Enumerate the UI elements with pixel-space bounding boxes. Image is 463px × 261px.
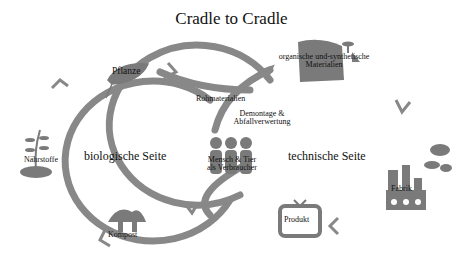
- compost-mushroom-icon: [108, 210, 146, 232]
- factory-icon: [386, 144, 452, 210]
- node-materials: organische und-synthetische Materialien: [268, 53, 380, 70]
- materials-line-2: Materialien: [268, 61, 380, 69]
- node-product: Produkt: [284, 216, 309, 224]
- cycle-diagram: [0, 0, 463, 261]
- node-plant: Pflanze: [112, 67, 141, 77]
- nutrient-sprout-icon: [20, 130, 52, 178]
- consumers-line-2: als Verbraucher: [200, 164, 264, 172]
- node-disassembly: Demontage & Abfallverwertung: [222, 110, 302, 127]
- node-factory: Fabrik: [391, 185, 412, 193]
- node-consumers: Mensch & Tier als Verbraucher: [200, 156, 264, 173]
- node-nutrients: Nährstoffe: [24, 156, 58, 164]
- technical-side-label: technische Seite: [288, 150, 366, 163]
- node-compost: Kompost: [108, 231, 137, 239]
- node-raw-materials: Rohmaterialien: [196, 95, 245, 103]
- biological-side-label: biologische Seite: [84, 150, 166, 163]
- disassembly-line-2: Abfallverwertung: [222, 118, 302, 126]
